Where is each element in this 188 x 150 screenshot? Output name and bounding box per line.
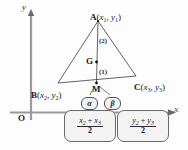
point-b-coords: (x2, y2)	[37, 90, 62, 100]
x-midpoint-fraction: x2 + x3 2	[77, 117, 103, 135]
point-m-label: M	[92, 85, 101, 94]
segment-ratio-lower: (1)	[99, 69, 107, 76]
point-a-label: A(x1, y1)	[90, 7, 121, 23]
point-a-coords: (x1, y1)	[97, 12, 122, 22]
segment-ratio-lower-text: (1)	[99, 68, 107, 76]
point-b-label: B(x2, y2)	[31, 85, 62, 101]
y-axis-arrowhead	[28, 9, 34, 16]
alpha-badge-text: α	[82, 99, 97, 108]
beta-badge-text: β	[105, 99, 120, 108]
geometry-figure: y x O A(x1, y1) B(x2, y2) C(x3, y3) G M …	[0, 0, 188, 150]
y-midpoint-denominator: 2	[130, 127, 156, 135]
y-midpoint-formula-box: y2 + y3 2	[117, 110, 169, 142]
median-am	[97, 21, 99, 83]
point-g-name: G	[86, 56, 93, 66]
origin-label-text: O	[18, 113, 25, 123]
y-axis-label-text: y	[22, 2, 26, 12]
origin-label: O	[18, 114, 25, 123]
point-c-label: C(x3, y3)	[134, 77, 165, 93]
x-midpoint-denominator: 2	[77, 127, 103, 135]
y-axis-label: y	[22, 3, 26, 12]
x-axis-label-text: x	[174, 104, 179, 114]
beta-badge: β	[104, 97, 121, 110]
y-midpoint-fraction: y2 + y3 2	[130, 117, 156, 135]
alpha-badge: α	[81, 97, 98, 110]
segment-ratio-upper: (2)	[99, 38, 107, 45]
x-midpoint-formula-box: x2 + x3 2	[64, 110, 116, 142]
point-g-label: G	[86, 57, 93, 66]
point-m-name: M	[92, 84, 101, 94]
x-axis-label: x	[174, 105, 179, 114]
point-c-coords: (x3, y3)	[141, 82, 166, 92]
point-g-marker	[95, 61, 98, 64]
segment-ratio-upper-text: (2)	[99, 37, 107, 45]
